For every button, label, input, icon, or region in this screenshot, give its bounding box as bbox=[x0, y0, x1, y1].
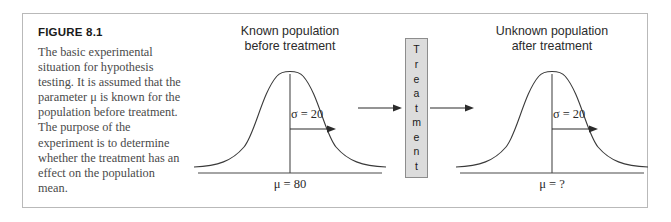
heading-unknown-population: Unknown population after treatment bbox=[457, 24, 647, 53]
heading-unknown-line2: after treatment bbox=[457, 39, 647, 54]
treatment-letter: n bbox=[414, 144, 420, 159]
heading-known-population: Known population before treatment bbox=[195, 24, 385, 53]
caption-block: FIGURE 8.1 The basic experimental situat… bbox=[38, 26, 183, 196]
treatment-letter: t bbox=[415, 101, 418, 116]
treatment-letter: m bbox=[412, 115, 421, 130]
heading-known-line1: Known population bbox=[195, 24, 385, 39]
treatment-letter: e bbox=[414, 130, 420, 145]
treatment-letter: t bbox=[415, 159, 418, 174]
arrow-right-icon bbox=[358, 101, 404, 115]
heading-known-line2: before treatment bbox=[195, 39, 385, 54]
sigma-label-after: σ = 20 bbox=[553, 107, 585, 122]
treatment-letter: T bbox=[413, 42, 419, 57]
figure-caption: The basic experimental situation for hyp… bbox=[38, 45, 183, 196]
figure-label: FIGURE 8.1 bbox=[38, 26, 183, 38]
treatment-letter: r bbox=[415, 57, 419, 72]
sigma-label-before: σ = 20 bbox=[291, 107, 323, 122]
treatment-letter: a bbox=[414, 86, 420, 101]
distribution-before-treatment: σ = 20 μ = 80 bbox=[192, 55, 388, 200]
distribution-after-treatment: σ = 20 μ = ? bbox=[454, 55, 650, 200]
heading-unknown-line1: Unknown population bbox=[457, 24, 647, 39]
figure-root: FIGURE 8.1 The basic experimental situat… bbox=[0, 0, 671, 222]
mu-label-before: μ = 80 bbox=[192, 177, 388, 192]
treatment-letter: e bbox=[414, 72, 420, 87]
treatment-box: T r e a t m e n t bbox=[405, 38, 428, 178]
mu-label-after: μ = ? bbox=[454, 177, 650, 192]
